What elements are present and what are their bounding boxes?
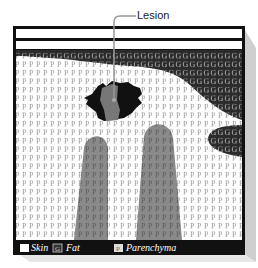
- legend-fat-label: Fat: [66, 242, 80, 253]
- legend-skin-swatch: [20, 244, 29, 252]
- frame-shadow: [245, 30, 256, 262]
- legend-parenchyma-label: Parenchyma: [126, 242, 176, 253]
- svg-text:P: P: [116, 245, 120, 253]
- legend-skin-label: Skin: [31, 242, 48, 253]
- lesion-label: Lesion: [137, 9, 169, 21]
- skin-layer: [16, 29, 242, 38]
- svg-text:G: G: [55, 245, 60, 253]
- breast-tissue-diagram: P P G G P: [0, 0, 258, 268]
